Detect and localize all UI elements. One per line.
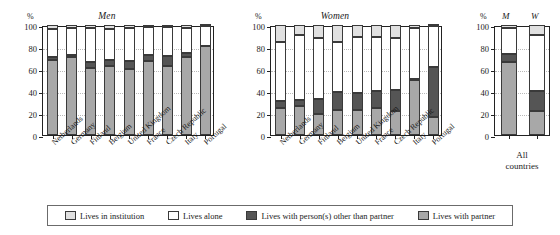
- legend-item-other[interactable]: Lives with person(s) other than partner: [246, 211, 393, 221]
- bar-segment-other: [66, 55, 77, 57]
- y-axis-tick-label: 80: [257, 44, 266, 54]
- panel-title-women: Women: [240, 11, 430, 21]
- bar-segment-alone: [294, 35, 305, 100]
- y-axis-tick: [267, 137, 271, 138]
- bar-united-kingdom: [124, 25, 135, 135]
- bar-segment-other: [313, 99, 324, 114]
- bar-segment-institution: [143, 25, 154, 27]
- bar-segment-other: [371, 91, 382, 108]
- bar-segment-alone: [124, 28, 135, 61]
- y-axis-tick-label: 60: [29, 66, 38, 76]
- bar-belgium: [104, 25, 115, 135]
- bar-segment-alone: [332, 42, 343, 93]
- bar-segment-partner: [47, 60, 58, 135]
- y-axis-tick: [39, 49, 43, 50]
- y-axis-tick-label: 20: [29, 110, 38, 120]
- y-axis-tick-label: 100: [252, 22, 265, 32]
- legend-label: Lives alone: [183, 211, 222, 221]
- bar-segment-alone: [313, 38, 324, 99]
- bar-segment-institution: [85, 25, 96, 28]
- legend-label: Lives with partner: [433, 211, 495, 221]
- bar-segment-other: [85, 62, 96, 68]
- y-axis-tick: [39, 115, 43, 116]
- bar-segment-institution: [409, 25, 420, 28]
- bar-w: [529, 25, 545, 135]
- x-axis-labels-men: NetherlandsGermanyFinlandBelgiumUnited K…: [0, 140, 218, 200]
- bar-segment-partner: [501, 62, 517, 135]
- y-axis-tick: [267, 71, 271, 72]
- y-axis-tick-label: 20: [481, 110, 490, 120]
- bar-segment-other: [352, 93, 363, 110]
- bar-segment-alone: [275, 42, 286, 101]
- bar-segment-other: [275, 101, 286, 108]
- legend-item-institution[interactable]: Lives in institution: [65, 211, 144, 221]
- bar-segment-institution: [352, 25, 363, 37]
- column-header-men: M: [502, 11, 510, 21]
- bar-segment-other: [124, 61, 135, 69]
- y-axis-tick: [39, 27, 43, 28]
- bar-segment-other: [501, 54, 517, 63]
- bar-czech-republic: [390, 25, 401, 135]
- bar-segment-other: [143, 55, 154, 62]
- bar-segment-institution: [181, 25, 192, 28]
- y-axis-tick-label: 100: [476, 22, 489, 32]
- bar-segment-alone: [162, 27, 173, 56]
- bar-segment-institution: [501, 25, 517, 28]
- group-label-all-line1: All: [494, 150, 550, 161]
- legend-item-alone[interactable]: Lives alone: [168, 211, 222, 221]
- bar-segment-alone: [529, 35, 545, 91]
- y-axis-tick-label: 80: [481, 44, 490, 54]
- y-axis-unit-all: %: [480, 12, 487, 21]
- y-axis-tick-label: 60: [257, 66, 266, 76]
- bar-segment-other: [332, 92, 343, 110]
- bar-segment-institution: [47, 25, 58, 29]
- panel-title-men: Men: [12, 11, 202, 21]
- bar-m: [501, 25, 517, 135]
- x-axis-labels-women: NetherlandsGermanyFinlandBelgiumUnited K…: [228, 140, 446, 200]
- bar-segment-alone: [181, 28, 192, 52]
- legend-item-partner[interactable]: Lives with partner: [418, 211, 495, 221]
- legend-label: Lives in institution: [80, 211, 144, 221]
- bar-segment-institution: [313, 25, 324, 38]
- y-axis-tick: [491, 27, 495, 28]
- bar-segment-partner: [275, 108, 286, 136]
- y-axis-tick-label: 100: [24, 22, 37, 32]
- y-axis-tick-label: 0: [485, 132, 489, 142]
- x-axis-tick: [509, 135, 510, 139]
- bar-segment-other: [529, 91, 545, 111]
- y-axis-tick: [39, 71, 43, 72]
- y-axis-tick-label: 20: [257, 110, 266, 120]
- bar-segment-institution: [104, 25, 115, 29]
- legend-swatch-alone-icon: [168, 211, 179, 220]
- bar-segment-alone: [501, 28, 517, 53]
- bar-segment-institution: [200, 24, 211, 26]
- x-axis-tick: [537, 135, 538, 139]
- bar-segment-other: [162, 56, 173, 66]
- y-axis-tick: [267, 49, 271, 50]
- bar-segment-institution: [275, 25, 286, 42]
- bar-segment-partner: [529, 111, 545, 135]
- bar-segment-alone: [390, 38, 401, 90]
- bar-portugal: [428, 25, 439, 135]
- bar-segment-institution: [162, 25, 173, 27]
- bar-portugal: [200, 25, 211, 135]
- column-header-women: W: [531, 11, 539, 21]
- y-axis-tick: [267, 93, 271, 94]
- bar-segment-institution: [66, 25, 77, 28]
- bar-segment-alone: [143, 27, 154, 55]
- legend-swatch-institution-icon: [65, 211, 76, 220]
- bar-netherlands: [275, 25, 286, 135]
- legend-swatch-other-icon: [246, 211, 257, 220]
- legend: Lives in institutionLives aloneLives wit…: [47, 205, 513, 226]
- legend-label: Lives with person(s) other than partner: [261, 211, 393, 221]
- bar-segment-alone: [104, 29, 115, 60]
- bar-segment-institution: [529, 25, 545, 35]
- bar-segment-other: [47, 57, 58, 60]
- y-axis-tick-label: 40: [257, 88, 266, 98]
- panel-men: % Men 020406080100 NetherlandsGermanyFin…: [0, 0, 218, 200]
- panel-women: % Women 020406080100 NetherlandsGermanyF…: [228, 0, 446, 200]
- bar-segment-partner: [162, 66, 173, 135]
- bar-segment-institution: [124, 25, 135, 28]
- bar-segment-other: [104, 60, 115, 66]
- bar-czech-republic: [162, 25, 173, 135]
